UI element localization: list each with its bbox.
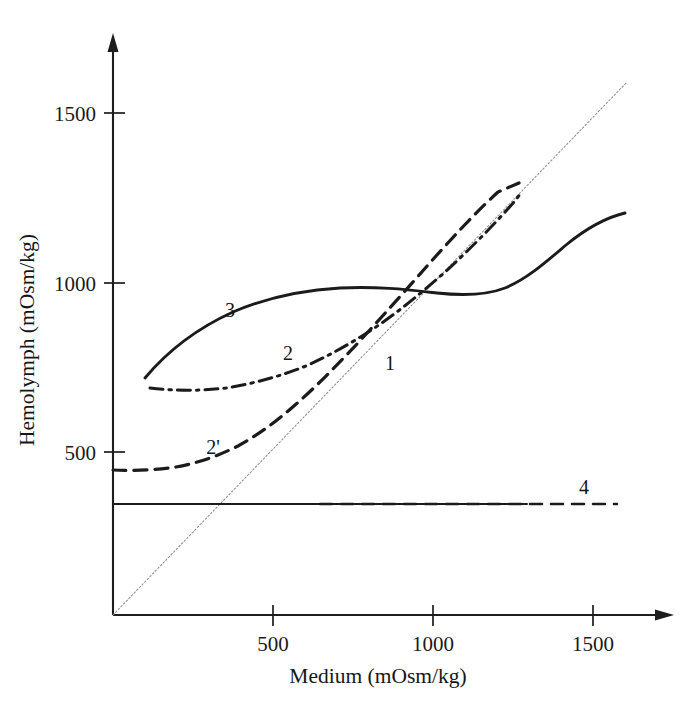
x-axis-ticks: 500 1000 1500 bbox=[257, 605, 614, 656]
figure-container: 500 1000 1500 500 1000 1500 Medium (mOsm… bbox=[0, 0, 695, 701]
x-tick-label-1500: 1500 bbox=[572, 632, 614, 656]
osmoregulation-line-chart: 500 1000 1500 500 1000 1500 Medium (mOsm… bbox=[0, 0, 695, 701]
y-tick-label-500: 500 bbox=[65, 441, 97, 465]
x-tick-label-500: 500 bbox=[257, 632, 289, 656]
x-tick-label-1000: 1000 bbox=[412, 632, 454, 656]
y-tick-label-1500: 1500 bbox=[54, 102, 96, 126]
curve-label-2-prime: 2' bbox=[206, 436, 220, 458]
curve-label-1: 1 bbox=[385, 352, 395, 374]
y-axis-title: Hemolymph (mOsm/kg) bbox=[15, 234, 39, 446]
curve-label-3: 3 bbox=[225, 299, 235, 321]
curve-label-4: 4 bbox=[579, 476, 589, 498]
curve-1-isosmotic-line bbox=[113, 82, 627, 615]
y-axis-arrowhead bbox=[108, 33, 119, 52]
x-axis-arrowhead bbox=[655, 610, 674, 621]
y-axis-ticks: 500 1000 1500 bbox=[54, 102, 125, 465]
curve-2prime-hyper-hypo-osmotic-regulator bbox=[113, 183, 519, 470]
y-tick-label-1000: 1000 bbox=[54, 272, 96, 296]
x-axis-title: Medium (mOsm/kg) bbox=[289, 664, 466, 688]
curve-label-2: 2 bbox=[283, 342, 293, 364]
